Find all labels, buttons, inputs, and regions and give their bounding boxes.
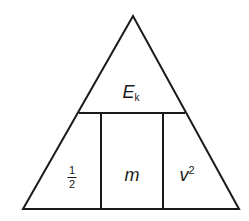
formula-triangle-diagram: Ek 1 2 m v2 bbox=[0, 0, 249, 221]
velocity-symbol: v bbox=[179, 165, 188, 185]
mass-symbol: m bbox=[125, 165, 140, 185]
energy-symbol: E bbox=[122, 82, 134, 102]
half-fraction-label: 1 2 bbox=[68, 160, 77, 190]
energy-subscript: k bbox=[135, 92, 140, 103]
fraction-numerator: 1 bbox=[69, 165, 75, 176]
triangle-outline bbox=[0, 0, 249, 221]
fraction: 1 2 bbox=[68, 165, 77, 190]
velocity-squared-label: v2 bbox=[179, 164, 194, 186]
fraction-denominator: 2 bbox=[69, 179, 75, 190]
velocity-exponent: 2 bbox=[188, 164, 194, 176]
kinetic-energy-label: Ek bbox=[122, 82, 139, 103]
mass-label: m bbox=[125, 165, 140, 186]
